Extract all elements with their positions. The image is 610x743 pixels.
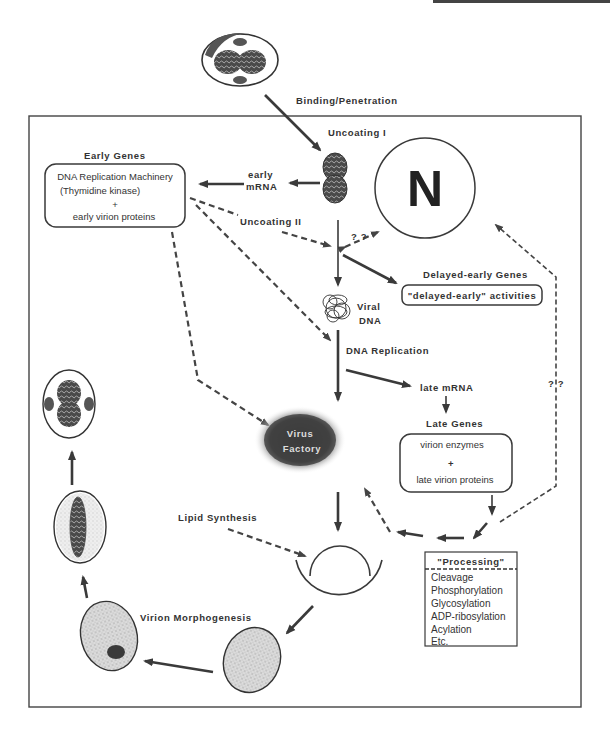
- delayed-early-title: Delayed-early Genes: [423, 269, 528, 280]
- uncoating-2-arrow: [282, 232, 330, 246]
- uncoating-2-label: Uncoating II: [240, 216, 302, 227]
- processing-item: Glycosylation: [431, 598, 490, 609]
- late-genes-title: Late Genes: [426, 418, 483, 429]
- early-genes-line1: DNA Replication Machinery: [57, 171, 173, 182]
- to-processing-arrow: [474, 523, 487, 538]
- binding-label: Binding/Penetration: [296, 95, 398, 106]
- early-genes-title: Early Genes: [84, 150, 146, 161]
- factory-label-1: Virus: [287, 428, 314, 439]
- late-genes-line1: virion enzymes: [420, 439, 484, 450]
- lipid-synthesis-label: Lipid Synthesis: [178, 512, 257, 523]
- virus-factory-icon: [254, 406, 346, 474]
- factory-label-2: Factory: [283, 443, 322, 454]
- incoming-virion-icon: [202, 33, 278, 86]
- early-genes-line3: early virion proteins: [73, 211, 156, 222]
- late-mrna-label: late mRNA: [420, 382, 473, 393]
- mature-virion-icon: [43, 370, 95, 438]
- virion-with-nucleoid-icon: [73, 595, 145, 677]
- early-genes-plus: +: [112, 199, 118, 210]
- processing-title: "Processing": [437, 556, 504, 567]
- viral-dna-label-1: Viral: [357, 301, 380, 312]
- delayed-early-activities: "delayed-early" activities: [408, 290, 537, 301]
- late-genes-line2: late virion proteins: [416, 474, 493, 485]
- qq-label-1: ? ?: [351, 231, 367, 242]
- immature-virion-icon: [214, 619, 289, 700]
- morphogenesis-label: Virion Morphogenesis: [140, 612, 252, 623]
- envelope-to-immature-arrow: [287, 606, 313, 633]
- qq-label-2: ? ?: [548, 378, 564, 389]
- immature-to-nucleoid-arrow: [145, 661, 213, 672]
- delayed-early-arrow: [343, 255, 396, 283]
- elongated-core-virion-icon: [54, 491, 106, 563]
- viral-dna-label-2: DNA: [359, 315, 381, 326]
- lipid-to-envelope-dash: [228, 529, 305, 556]
- early-mrna-label-2: mRNA: [246, 181, 277, 192]
- viral-dna-icon: [323, 295, 350, 322]
- nucleus-label: N: [407, 161, 443, 217]
- header-rule: [433, 0, 610, 3]
- processing-item: Etc.: [431, 636, 448, 647]
- dna-replication-label: DNA Replication: [346, 345, 429, 356]
- processing-to-factory-dash: [365, 489, 390, 532]
- early-genes-line2: (Thymidine kinase): [60, 185, 140, 196]
- processing-item: ADP-ribosylation: [431, 611, 505, 622]
- viral-replication-diagram: Binding/Penetration Uncoating I early mR…: [0, 0, 610, 743]
- early-mrna-label-1: early: [248, 169, 273, 180]
- processing-item: Cleavage: [431, 572, 474, 583]
- early-to-factory-dash: [172, 232, 268, 425]
- processing-item: Phosphorylation: [431, 585, 503, 596]
- viral-core-icon: [323, 153, 347, 203]
- processing-item: Acylation: [431, 624, 472, 635]
- late-genes-plus: +: [448, 458, 454, 469]
- processing-left-arrow-2: [398, 532, 423, 536]
- envelope-crescent-icon: [296, 546, 382, 595]
- uncoating-1-label: Uncoating I: [328, 127, 386, 138]
- to-late-mrna-arrow: [346, 370, 410, 386]
- to-elongated-arrow: [83, 577, 87, 598]
